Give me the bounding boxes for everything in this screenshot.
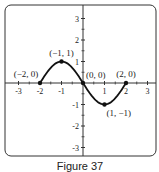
x-tick-label: 2 [124, 87, 128, 96]
point-label: (2, 0) [116, 69, 136, 79]
y-tick-label: -1 [72, 101, 79, 110]
data-point [124, 81, 128, 85]
point-label: (1, −1) [107, 108, 132, 118]
data-point [102, 102, 106, 106]
x-tick-label: 1 [103, 87, 107, 96]
x-tick-label: -2 [37, 87, 44, 96]
x-tick-label: 3 [146, 87, 150, 96]
point-label: (−1, 1) [49, 48, 74, 58]
y-tick-label: -3 [72, 144, 79, 153]
y-tick-label: 3 [75, 15, 79, 24]
x-tick-label: -1 [58, 87, 65, 96]
chart: -3-2-1123321-1-2-3 (−2, 0)(−1, 1)(0, 0)(… [0, 0, 159, 172]
data-point [38, 81, 42, 85]
data-point [81, 81, 85, 85]
x-tick-label: -3 [15, 87, 22, 96]
point-label: (0, 0) [86, 70, 106, 80]
y-tick-label: 2 [75, 36, 79, 45]
data-point [59, 59, 63, 63]
figure-caption: Figure 37 [57, 160, 103, 172]
point-label: (−2, 0) [14, 69, 39, 79]
y-tick-label: -2 [72, 122, 79, 131]
y-tick-label: 1 [75, 58, 79, 67]
